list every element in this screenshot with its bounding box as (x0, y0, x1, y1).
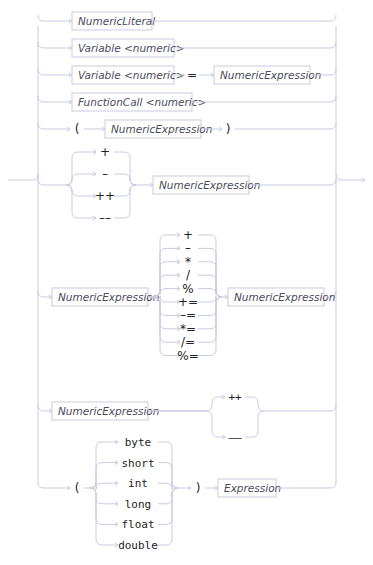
track-line (148, 397, 225, 411)
track-line (38, 69, 44, 75)
nonterminal-label: NumericExpression (58, 405, 159, 417)
track-line (330, 15, 336, 21)
track-line (198, 297, 222, 342)
nonterminal-label: NumericExpression (234, 291, 335, 303)
nonterminal-label: NumericLiteral (78, 15, 155, 27)
terminal-label: –= (180, 308, 196, 322)
terminal-label: % (182, 282, 193, 296)
railroad-diagram: NumericLiteralVariable <numeric>Variable… (0, 0, 373, 565)
track-line (90, 442, 118, 488)
track-line (38, 483, 44, 488)
terminal-label: ++ (228, 391, 242, 404)
terminal-label: short (121, 457, 154, 470)
track-line (198, 235, 222, 297)
track-line (330, 42, 336, 48)
terminal-label: int (128, 477, 148, 490)
track-line (198, 296, 222, 303)
nonterminal-label: NumericExpression (58, 291, 159, 303)
nonterminal-box: NumericLiteral (72, 12, 155, 30)
track-line (245, 411, 264, 437)
nonterminal-label: Expression (224, 482, 281, 494)
terminal-label: –– (228, 431, 242, 444)
terminal-label: double (118, 539, 158, 552)
track-line (330, 179, 336, 185)
nonterminal-label: FunctionCall <numeric> (78, 96, 206, 108)
track-line (198, 297, 222, 356)
nonterminal-box: NumericExpression (153, 176, 260, 194)
terminal-label: + (100, 145, 110, 159)
track-line (38, 174, 44, 185)
track-line (198, 297, 222, 315)
nonterminal-label: NumericExpression (159, 179, 260, 191)
nonterminal-box: Expression (218, 479, 281, 497)
track-line (158, 488, 178, 524)
track-line (148, 248, 180, 297)
nonterminal-box: NumericExpression (105, 120, 212, 138)
track-line (330, 69, 336, 75)
nonterminal-box: NumericExpression (228, 288, 335, 306)
nonterminal-box: NumericExpression (214, 66, 321, 84)
track-line (336, 174, 342, 180)
terminal-label: – (185, 241, 191, 255)
terminal-label: float (121, 518, 154, 531)
track-line (66, 185, 78, 218)
nonterminal-box: FunctionCall <numeric> (72, 93, 206, 111)
track-line (158, 442, 178, 488)
track-line (148, 297, 180, 342)
nonterminal-label: Variable <numeric> (78, 69, 185, 81)
nonterminal-box: Variable <numeric> (72, 39, 185, 57)
terminal-label: long (125, 498, 152, 511)
track-line (32, 174, 38, 180)
track-line (38, 96, 44, 102)
terminal-label: %= (177, 349, 198, 363)
nonterminal-label: NumericExpression (111, 123, 212, 135)
track-line (158, 488, 178, 504)
track-line (38, 42, 44, 48)
track-line (198, 275, 222, 297)
track-line (148, 235, 180, 297)
nonterminal-box: NumericExpression (52, 288, 159, 306)
track-line (90, 482, 118, 489)
track-line (90, 488, 118, 545)
terminal-label: ++ (95, 189, 115, 203)
track-line (198, 262, 222, 297)
track-line (90, 488, 118, 504)
terminal-label: ) (196, 481, 201, 495)
track-line (158, 488, 178, 545)
track-line (148, 411, 225, 437)
terminal-label: /= (181, 335, 195, 349)
nonterminal-box: Variable <numeric> (72, 66, 185, 84)
track-line (198, 289, 222, 297)
track-line (330, 96, 336, 102)
terminal-label: ( (75, 481, 80, 495)
track-line (38, 405, 44, 411)
track-line (114, 185, 136, 196)
track-line (114, 185, 136, 218)
track-line (158, 463, 178, 488)
terminal-label: –– (99, 211, 111, 225)
terminal-label: / (186, 268, 191, 282)
track-line (38, 123, 44, 129)
track-line (330, 405, 336, 411)
track-line (148, 297, 180, 356)
terminal-label: += (178, 295, 198, 309)
terminal-label: + (183, 228, 193, 242)
track-line (114, 174, 136, 185)
track-line (276, 482, 336, 488)
terminal-label: * (185, 255, 191, 269)
track-line (114, 152, 136, 185)
terminal-label: = (187, 68, 197, 82)
terminal-label: ( (75, 122, 80, 136)
nonterminal-label: NumericExpression (220, 69, 321, 81)
nonterminal-box: NumericExpression (52, 402, 159, 420)
track-line (198, 248, 222, 297)
terminal-label: – (102, 167, 108, 181)
track-line (90, 463, 118, 488)
terminal-label: ) (226, 122, 231, 136)
track-line (90, 488, 118, 524)
terminal-label: byte (125, 436, 152, 449)
track-line (245, 397, 264, 411)
track-line (38, 291, 44, 297)
nonterminal-label: Variable <numeric> (78, 42, 185, 54)
track-line (38, 15, 44, 21)
